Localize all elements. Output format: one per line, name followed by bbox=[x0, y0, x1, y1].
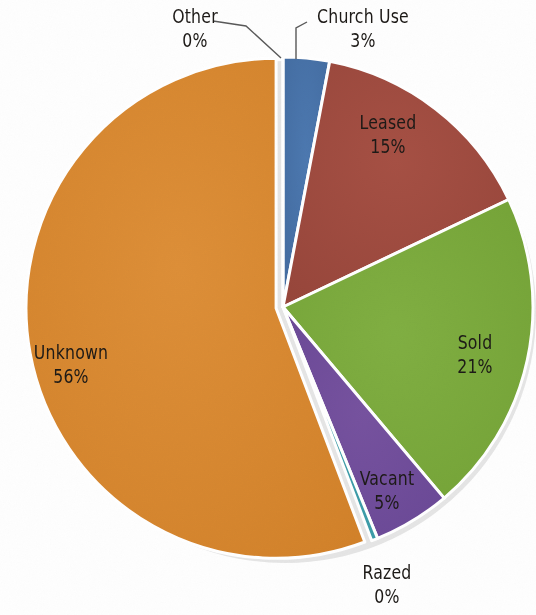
pie-label-unknown-name: Unknown bbox=[11, 340, 131, 364]
pie-label-sold-percent: 21% bbox=[424, 354, 525, 378]
pie-label-church-use-percent: 3% bbox=[294, 28, 432, 52]
pie-label-sold: Sold 21% bbox=[424, 330, 525, 379]
pie-label-church-use-name: Church Use bbox=[294, 4, 432, 28]
pie-label-razed-percent: 0% bbox=[336, 584, 437, 608]
pie-label-razed: Razed 0% bbox=[336, 560, 437, 609]
pie-label-unknown: Unknown 56% bbox=[11, 340, 131, 389]
pie-label-razed-name: Razed bbox=[336, 560, 437, 584]
pie-label-leased: Leased 15% bbox=[337, 110, 438, 159]
pie-label-other: Other 0% bbox=[144, 4, 245, 53]
pie-label-unknown-percent: 56% bbox=[11, 364, 131, 388]
pie-label-leased-name: Leased bbox=[337, 110, 438, 134]
pie-label-leased-percent: 15% bbox=[337, 134, 438, 158]
pie-label-other-percent: 0% bbox=[144, 28, 245, 52]
pie-label-vacant-name: Vacant bbox=[336, 466, 437, 490]
pie-chart-canvas bbox=[0, 0, 536, 615]
pie-label-vacant: Vacant 5% bbox=[336, 466, 437, 515]
pie-label-other-name: Other bbox=[144, 4, 245, 28]
pie-chart: Other 0% Church Use 3% Leased 15% Sold 2… bbox=[0, 0, 536, 615]
pie-label-church-use: Church Use 3% bbox=[294, 4, 432, 53]
pie-label-sold-name: Sold bbox=[424, 330, 525, 354]
pie-label-vacant-percent: 5% bbox=[336, 490, 437, 514]
